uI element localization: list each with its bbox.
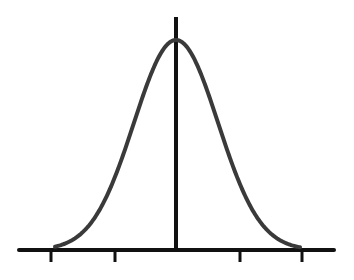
normal-distribution-chart bbox=[0, 0, 354, 280]
